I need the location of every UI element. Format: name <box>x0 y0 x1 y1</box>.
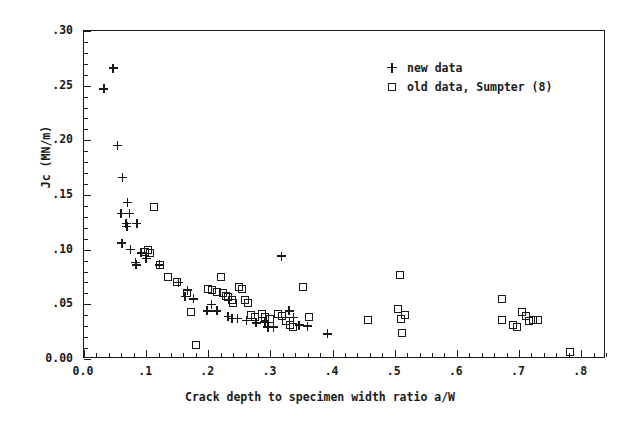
data-point-new-data <box>203 306 212 315</box>
y-axis-major-tick <box>84 250 91 251</box>
data-point-new-data <box>122 222 131 231</box>
y-axis-minor-tick <box>84 217 88 218</box>
data-point-old-data <box>173 278 181 286</box>
x-axis-major-tick <box>333 350 334 357</box>
x-axis-major-tick <box>208 350 209 357</box>
data-point-old-data <box>305 313 313 321</box>
data-point-old-data <box>397 315 405 323</box>
data-point-old-data <box>364 316 372 324</box>
data-point-old-data <box>244 299 252 307</box>
x-axis-minor-tick <box>444 353 445 357</box>
x-axis-minor-tick <box>420 353 421 357</box>
data-point-new-data <box>123 198 132 207</box>
x-tick-label: .7 <box>493 364 543 378</box>
x-axis-minor-tick <box>171 353 172 357</box>
x-axis-minor-tick <box>96 353 97 357</box>
x-axis-minor-tick <box>482 353 483 357</box>
x-axis-minor-tick <box>159 353 160 357</box>
data-point-old-data <box>187 308 195 316</box>
y-axis-major-tick <box>84 304 91 305</box>
y-axis-minor-tick <box>84 129 88 130</box>
legend: new data old data, Sumpter (8) <box>385 58 552 96</box>
data-point-new-data <box>125 209 134 218</box>
y-axis-major-tick <box>84 31 91 32</box>
data-point-new-data <box>113 141 122 150</box>
x-axis-minor-tick <box>258 353 259 357</box>
data-point-new-data <box>277 252 286 261</box>
data-point-old-data <box>398 329 406 337</box>
x-axis-minor-tick <box>507 353 508 357</box>
x-axis-minor-tick <box>382 353 383 357</box>
x-axis-minor-tick <box>531 353 532 357</box>
data-point-old-data <box>164 273 172 281</box>
y-axis-minor-tick <box>84 239 88 240</box>
data-point-new-data <box>132 260 141 269</box>
x-axis-minor-tick <box>121 353 122 357</box>
x-axis-minor-tick <box>295 353 296 357</box>
data-point-new-data <box>132 219 141 228</box>
x-axis-minor-tick <box>320 353 321 357</box>
x-axis-major-tick <box>581 350 582 357</box>
y-tick-label: .15 <box>0 187 73 201</box>
x-axis-minor-tick <box>569 353 570 357</box>
x-axis-minor-tick <box>283 353 284 357</box>
data-point-new-data <box>109 64 118 73</box>
y-axis-minor-tick <box>84 64 88 65</box>
y-axis-minor-tick <box>84 108 88 109</box>
x-axis-minor-tick <box>544 353 545 357</box>
data-point-old-data <box>150 203 158 211</box>
data-point-old-data <box>566 348 574 356</box>
data-point-new-data <box>99 84 108 93</box>
data-point-new-data <box>303 322 312 331</box>
data-point-old-data <box>192 341 200 349</box>
data-point-new-data <box>212 306 221 315</box>
x-axis-major-tick <box>84 350 85 357</box>
y-tick-label: 0.00 <box>0 351 73 365</box>
data-point-old-data <box>217 273 225 281</box>
x-axis-minor-tick <box>407 353 408 357</box>
x-axis-minor-tick <box>594 353 595 357</box>
y-axis-minor-tick <box>84 326 88 327</box>
x-axis-minor-tick <box>196 353 197 357</box>
data-point-old-data <box>498 316 506 324</box>
x-axis-minor-tick <box>246 353 247 357</box>
x-tick-label: .6 <box>431 364 481 378</box>
x-axis-minor-tick <box>370 353 371 357</box>
y-axis-minor-tick <box>84 348 88 349</box>
x-axis-minor-tick <box>469 353 470 357</box>
y-axis-major-tick <box>84 195 91 196</box>
x-axis-minor-tick <box>494 353 495 357</box>
x-axis-minor-tick <box>233 353 234 357</box>
data-point-old-data <box>229 299 237 307</box>
legend-item-old-data: old data, Sumpter (8) <box>385 77 552 96</box>
y-axis-minor-tick <box>84 337 88 338</box>
y-axis-major-tick <box>84 86 91 87</box>
x-axis-major-tick <box>395 350 396 357</box>
y-axis-minor-tick <box>84 173 88 174</box>
y-tick-label: .10 <box>0 242 73 256</box>
y-tick-label: .25 <box>0 78 73 92</box>
data-point-new-data <box>323 329 332 338</box>
y-axis-minor-tick <box>84 118 88 119</box>
x-axis-minor-tick <box>308 353 309 357</box>
data-point-old-data <box>498 295 506 303</box>
y-axis-minor-tick <box>84 162 88 163</box>
data-point-old-data <box>289 323 297 331</box>
data-point-new-data <box>117 239 126 248</box>
x-tick-label: .5 <box>369 364 419 378</box>
x-axis-minor-tick <box>606 353 607 357</box>
data-point-old-data <box>183 289 191 297</box>
y-axis-minor-tick <box>84 282 88 283</box>
x-tick-label: .3 <box>244 364 294 378</box>
data-point-old-data <box>534 316 542 324</box>
y-tick-label: .05 <box>0 296 73 310</box>
x-tick-label: .4 <box>307 364 357 378</box>
plus-marker-icon <box>385 61 399 75</box>
legend-label-old-data: old data, Sumpter (8) <box>407 80 552 94</box>
legend-label-new-data: new data <box>407 61 462 75</box>
x-tick-label: .1 <box>120 364 170 378</box>
y-axis-minor-tick <box>84 315 88 316</box>
x-axis-major-tick <box>270 350 271 357</box>
x-axis-minor-tick <box>183 353 184 357</box>
square-marker-icon <box>385 80 399 94</box>
